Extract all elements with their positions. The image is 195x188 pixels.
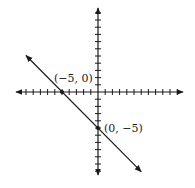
point-label: (−5, 0) bbox=[54, 72, 93, 85]
axes bbox=[16, 8, 183, 175]
coordinate-plane: (−5, 0)(0, −5) bbox=[0, 0, 195, 188]
point-label: (0, −5) bbox=[104, 122, 143, 135]
point-marker bbox=[96, 126, 100, 130]
point-marker bbox=[60, 90, 64, 94]
